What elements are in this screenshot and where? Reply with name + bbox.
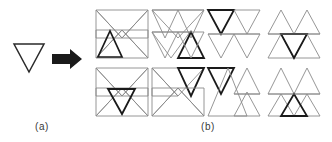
panel-b-label: (b) bbox=[201, 121, 215, 132]
panel-a-label: (a) bbox=[35, 121, 49, 132]
triangle-substitution-figure: (a) (b) bbox=[0, 0, 332, 142]
figure-container: (a) (b) bbox=[0, 0, 332, 142]
